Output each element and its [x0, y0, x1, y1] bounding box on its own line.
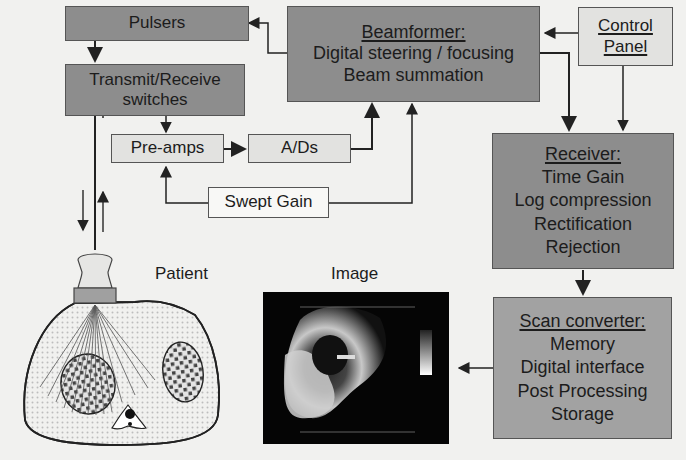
scan-converter-line2: Digital interface [520, 356, 644, 379]
control-panel-block: Control Panel [578, 7, 673, 66]
receiver-heading: Receiver: [545, 143, 621, 166]
control-panel-line2: Panel [604, 37, 647, 57]
swept-gain-label: Swept Gain [225, 192, 313, 212]
scan-converter-heading: Scan converter: [519, 310, 645, 333]
preamps-label: Pre-amps [131, 138, 205, 158]
patient-label: Patient [155, 264, 208, 284]
ads-label: A/Ds [281, 138, 318, 158]
tr-switches-line1: Transmit/Receive [89, 70, 221, 90]
image-label: Image [331, 264, 378, 284]
receiver-line1: Time Gain [542, 166, 624, 189]
beamformer-block: Beamformer: Digital steering / focusing … [287, 6, 540, 102]
receiver-line2: Log compression [514, 189, 651, 212]
swept-gain-block: Swept Gain [208, 187, 329, 218]
scan-converter-line3: Post Processing [517, 380, 647, 403]
pulsers-label: Pulsers [129, 13, 186, 33]
beamformer-line1: Digital steering / focusing [313, 43, 514, 64]
tr-switches-line2: switches [122, 90, 187, 110]
ads-block: A/Ds [248, 134, 351, 163]
tr-switches-block: Transmit/Receive switches [65, 64, 245, 116]
scan-converter-line4: Storage [551, 403, 614, 426]
scan-converter-block: Scan converter: Memory Digital interface… [493, 297, 672, 439]
receiver-line4: Rejection [545, 236, 620, 259]
preamps-block: Pre-amps [111, 134, 224, 163]
receiver-block: Receiver: Time Gain Log compression Rect… [492, 133, 674, 269]
ultrasound-image [263, 292, 449, 444]
beamformer-line2: Beam summation [343, 65, 483, 86]
receiver-line3: Rectification [534, 213, 632, 236]
beamformer-heading: Beamformer: [361, 22, 465, 43]
scan-converter-line1: Memory [550, 333, 615, 356]
pulsers-block: Pulsers [65, 6, 249, 41]
control-panel-line1: Control [598, 16, 653, 36]
